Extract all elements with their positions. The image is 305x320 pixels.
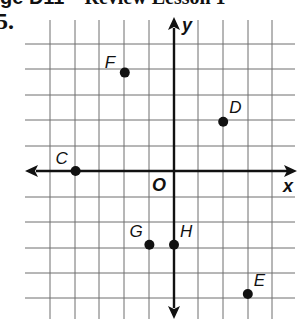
- point-label-d: D: [229, 98, 241, 117]
- point-label-c: C: [56, 149, 69, 168]
- point-f: [120, 68, 130, 78]
- x-axis-label: x: [282, 176, 294, 196]
- point-c: [71, 166, 81, 176]
- point-g: [144, 240, 154, 250]
- point-label-e: E: [254, 271, 266, 290]
- point-e: [243, 289, 253, 299]
- point-label-h: H: [180, 222, 193, 241]
- point-label-g: G: [129, 222, 142, 241]
- y-axis-label: y: [181, 15, 193, 35]
- point-d: [218, 117, 228, 127]
- coordinate-plane: x y O FDCGHE: [0, 0, 305, 320]
- point-h: [169, 240, 179, 250]
- point-label-f: F: [105, 53, 117, 72]
- origin-label: O: [152, 175, 166, 195]
